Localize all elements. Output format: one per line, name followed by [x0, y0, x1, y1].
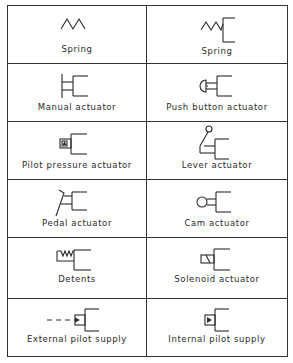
- cell-label: Manual actuator: [8, 102, 146, 112]
- cell-lever-actuator: Lever actuator: [147, 122, 287, 180]
- cell-pedal-actuator: Pedal actuator: [8, 180, 147, 238]
- spring-icon: [8, 14, 146, 46]
- cell-label: Detents: [8, 274, 146, 284]
- cell-label: Spring: [147, 46, 287, 56]
- cell-label: External pilot supply: [8, 334, 146, 344]
- cell-label: Push button actuator: [147, 102, 287, 112]
- internal-pilot-supply-icon: [147, 305, 287, 337]
- spring-valve-icon: [147, 12, 287, 44]
- cell-label: Internal pilot supply: [147, 334, 287, 344]
- cell-label: Spring: [8, 44, 146, 54]
- pilot-pressure-actuator-icon: [8, 128, 146, 160]
- push-button-actuator-icon: [147, 70, 287, 102]
- cell-label: Lever actuator: [147, 160, 287, 170]
- cell-label: Solenoid actuator: [147, 274, 287, 284]
- cell-manual-actuator: Manual actuator: [8, 64, 147, 122]
- cell-solenoid-actuator: Solenoid actuator: [147, 238, 287, 299]
- cell-spring: Spring: [8, 6, 147, 64]
- cam-actuator-icon: [147, 186, 287, 218]
- manual-actuator-icon: [8, 70, 146, 102]
- cell-push-button-actuator: Push button actuator: [147, 64, 287, 122]
- cell-spring-valve: Spring: [147, 6, 287, 64]
- cell-pilot-pressure-actuator: Pilot pressure actuator: [8, 122, 147, 180]
- cell-external-pilot-supply: External pilot supply: [8, 299, 147, 356]
- pedal-actuator-icon: [8, 186, 146, 218]
- cell-label: Cam actuator: [147, 218, 287, 228]
- external-pilot-supply-icon: [8, 305, 146, 337]
- cell-label: Pilot pressure actuator: [8, 160, 146, 170]
- cell-internal-pilot-supply: Internal pilot supply: [147, 299, 287, 356]
- lever-actuator-icon: [147, 124, 287, 156]
- cell-label: Pedal actuator: [8, 218, 146, 228]
- cell-cam-actuator: Cam actuator: [147, 180, 287, 238]
- cell-detents: Detents: [8, 238, 147, 299]
- actuator-symbols-table: Spring Spring Manual actuator: [7, 5, 288, 357]
